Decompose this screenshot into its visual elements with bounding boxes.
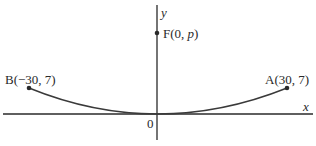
point-a-label: A(30, 7) bbox=[265, 72, 309, 87]
x-axis-label: x bbox=[302, 99, 309, 114]
origin-label: 0 bbox=[147, 116, 154, 131]
parabola-curve bbox=[29, 88, 287, 114]
parabola-diagram: y x 0 F(0, p) B(−30, 7) A(30, 7) bbox=[0, 0, 316, 146]
focus-dot bbox=[155, 31, 160, 36]
y-axis-label: y bbox=[159, 5, 167, 20]
point-b-label: B(−30, 7) bbox=[5, 72, 56, 87]
focus-label: F(0, p) bbox=[163, 26, 198, 41]
